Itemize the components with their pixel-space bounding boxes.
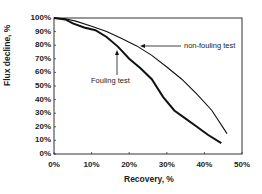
y-tick-label: 20% — [35, 123, 51, 131]
x-tick-label: 30% — [152, 160, 182, 169]
y-tick-label: 40% — [35, 96, 51, 104]
y-tick-label: 100% — [31, 14, 51, 22]
y-tick-label: 50% — [35, 82, 51, 90]
y-tick-label: 60% — [35, 68, 51, 76]
non-fouling-arrowhead — [140, 44, 145, 48]
non-fouling-curve — [54, 18, 227, 134]
y-tick-label: 10% — [35, 136, 51, 144]
y-tick-label: 70% — [35, 55, 51, 63]
y-tick-label: 0% — [39, 150, 51, 158]
plot-area-frame — [54, 18, 242, 154]
y-tick-label: 80% — [35, 41, 51, 49]
y-tick-label: 30% — [35, 109, 51, 117]
non-fouling-label: non-fouling test — [184, 41, 235, 50]
x-tick-label: 10% — [77, 160, 107, 169]
y-axis-title: Flux decline, % — [2, 25, 12, 86]
fouling-curve — [54, 18, 221, 143]
x-tick-label: 40% — [189, 160, 219, 169]
y-tick-label: 90% — [35, 28, 51, 36]
x-axis-title: Recovery, % — [124, 174, 174, 184]
x-tick-label: 20% — [114, 160, 144, 169]
x-tick-label: 50% — [227, 160, 257, 169]
fouling-arrowhead — [115, 50, 119, 55]
fouling-label: Fouling test — [91, 76, 130, 85]
x-tick-label: 0% — [39, 160, 69, 169]
